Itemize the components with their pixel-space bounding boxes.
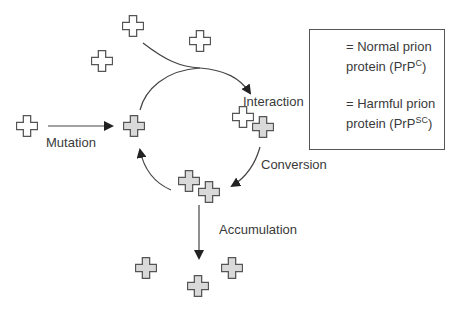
harmful-protein-icon [136, 258, 157, 279]
normal-protein-icon [92, 51, 113, 72]
harmful-protein-icon [253, 117, 274, 138]
legend-normal-text: = Normal prion protein (PrPC) [346, 38, 432, 75]
cycle-arc-top [140, 68, 200, 110]
legend-box: = Normal prion protein (PrPC) = Harmful … [309, 29, 445, 150]
conversion-label: Conversion [261, 157, 327, 172]
mutation-label: Mutation [46, 135, 96, 150]
legend-harmful-text: = Harmful prion protein (PrPSC) [346, 95, 435, 132]
interaction-label: Interaction [243, 94, 304, 109]
conversion-arrow [232, 147, 260, 186]
harmful-protein-icon [222, 258, 243, 279]
normal-protein-icon [190, 31, 211, 52]
accumulation-label: Accumulation [219, 222, 297, 237]
return-arrow [140, 150, 171, 190]
harmful-protein-icon [179, 171, 200, 192]
harmful-protein-icon [199, 182, 220, 203]
normal-protein-icon [233, 107, 254, 128]
harmful-protein-icon [124, 116, 145, 137]
normal-protein-icon [123, 16, 144, 37]
normal-protein-icon [17, 116, 38, 137]
prion-cycle-diagram: Interaction Mutation Conversion Accumula… [0, 0, 459, 314]
harmful-protein-icon [188, 276, 209, 297]
